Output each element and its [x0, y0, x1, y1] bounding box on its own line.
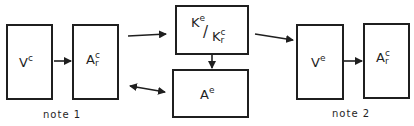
- label-a-e: Ae: [200, 85, 214, 102]
- label-k-slash: /: [203, 23, 208, 41]
- label-v-e: Ve: [311, 53, 325, 70]
- label-a-r-c-left: Acr: [86, 52, 100, 67]
- label-k-denominator: Kcr: [212, 29, 225, 44]
- arrow-arc-ae-bidirectional: [130, 86, 165, 92]
- box-a-r-c-left: Acr: [72, 24, 119, 100]
- box-v-c: Vc: [6, 24, 53, 100]
- box-v-e: Ve: [296, 24, 344, 100]
- label-v-c: Vc: [19, 53, 33, 70]
- label-a-r-c-right: Acr: [376, 50, 390, 65]
- note-2-label: note 2: [332, 108, 370, 119]
- box-a-r-c-right: Acr: [363, 23, 410, 99]
- arrow-k-to-ve: [255, 34, 293, 40]
- box-k-ratio: Ke / Kcr: [175, 5, 249, 55]
- note-1-label: note 1: [43, 109, 81, 120]
- arrow-arc-to-k: [128, 34, 166, 36]
- box-a-e: Ae: [172, 69, 249, 118]
